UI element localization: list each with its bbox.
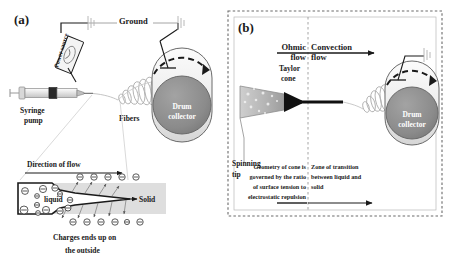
charge-glyph xyxy=(137,219,143,225)
panel-b-tag: (b) xyxy=(238,20,254,35)
cone-note-line-3: electrostatic repulsion xyxy=(248,193,307,200)
electrospinning-schematic: (a) Ground Po xyxy=(0,0,460,274)
taylor-cone-label-line1: Taylor xyxy=(279,64,301,73)
charge-glyph xyxy=(119,174,125,180)
cone-geometry-note: Geometry of cone is governed by the rati… xyxy=(248,163,307,203)
transition-note-line-2: solid xyxy=(311,183,324,190)
charge-glyph xyxy=(36,211,41,216)
charge-glyph xyxy=(20,206,28,214)
drum-a-label-line1: Drum xyxy=(172,102,192,111)
charge-glyph xyxy=(57,208,63,214)
ground-label: Ground xyxy=(119,16,148,26)
charge-glyph xyxy=(39,185,46,192)
charge-glyph xyxy=(105,174,111,180)
charge-glyph xyxy=(42,206,49,213)
charge-glyph xyxy=(91,174,97,180)
syringe-pump-label-line2: pump xyxy=(24,116,43,125)
charge-glyph xyxy=(52,185,58,191)
transition-note-line-1: between liquid and xyxy=(311,173,362,180)
cone-note-line-0: Geometry of cone is xyxy=(254,163,307,170)
charge-glyph xyxy=(77,174,83,180)
charge-glyph xyxy=(84,219,90,225)
charge-glyph xyxy=(22,188,29,195)
panel-a-tag: (a) xyxy=(14,12,29,27)
charge-glyph xyxy=(98,219,104,225)
charge-glyph xyxy=(70,219,76,225)
cone-note-line-1: governed by the ratio xyxy=(249,173,306,180)
convection-flow-label-line1: Convection xyxy=(311,42,352,52)
direction-of-flow-label: Direction of flow xyxy=(27,160,81,169)
drum-b-label-line2: collector xyxy=(398,120,426,129)
charge-glyph xyxy=(35,194,40,199)
taylor-cone-label-line2: cone xyxy=(281,74,296,83)
solid-label: Solid xyxy=(139,195,156,204)
charge-glyph xyxy=(124,219,129,224)
charge-glyph xyxy=(67,197,73,203)
cone-note-line-2: of surface tension to xyxy=(253,183,306,190)
charge-glyph xyxy=(34,202,39,207)
charge-glyph xyxy=(133,174,139,180)
figure-canvas: (a) Ground Po xyxy=(0,0,460,274)
charge-glyph xyxy=(65,205,71,211)
drum-collector-a: Drum collector xyxy=(152,41,212,142)
inset-caption-line2: the outside xyxy=(65,246,100,255)
syringe-pump-label-line1: Syringe xyxy=(20,106,45,115)
drum-b-label-line1: Drum xyxy=(402,110,422,119)
spinning-tip-label-line2: tip xyxy=(232,170,241,179)
ohmic-flow-label-line1: Ohmic xyxy=(281,42,306,52)
drum-a-label-line2: collector xyxy=(168,112,196,121)
inset-caption-line1: Charges ends up on xyxy=(53,233,117,242)
jet-straight-segment xyxy=(301,101,343,104)
charge-glyph xyxy=(112,219,118,225)
transition-note-line-0: Zone of transition xyxy=(311,163,359,170)
charge-glyph xyxy=(57,191,62,196)
